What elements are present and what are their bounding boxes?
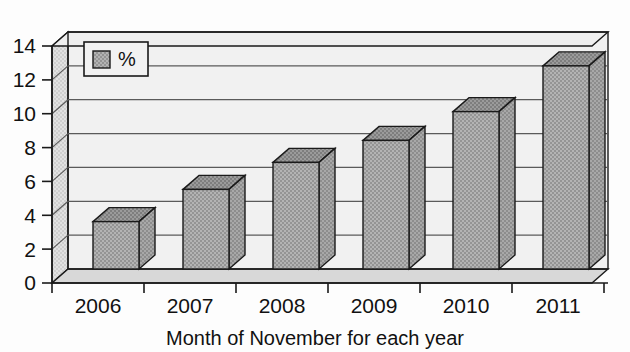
y-tick-label-0: 0 — [24, 271, 36, 294]
bar-2008 — [273, 148, 335, 269]
bar-side-face — [499, 98, 515, 269]
legend-swatch-icon — [93, 51, 110, 68]
bar-front-face — [453, 112, 499, 269]
bar-2007 — [183, 175, 245, 269]
bar-side-face — [589, 52, 605, 269]
x-axis-title: Month of November for each year — [166, 327, 464, 349]
bar-front-face — [363, 140, 409, 269]
bar-side-face — [319, 148, 335, 269]
x-tick-label-2010: 2010 — [443, 294, 490, 317]
y-tick-label-4: 4 — [24, 204, 36, 227]
x-axis: 2006 2007 2008 2009 2010 2011 — [52, 283, 608, 317]
bar-side-face — [229, 175, 245, 269]
y-tick-label-6: 6 — [24, 170, 36, 193]
legend[interactable]: % — [84, 42, 148, 76]
y-tick-label-2: 2 — [24, 238, 36, 261]
bar-front-face — [273, 162, 319, 269]
bar-front-face — [543, 66, 589, 269]
bar-front-face — [93, 222, 139, 269]
left-depth-wall — [52, 32, 68, 283]
y-tick-label-8: 8 — [24, 136, 36, 159]
x-tick-label-2009: 2009 — [351, 294, 398, 317]
bar-2011 — [543, 52, 605, 269]
x-tick-label-2007: 2007 — [167, 294, 214, 317]
bar-chart: 0 2 4 6 8 10 12 14 2006 2007 2008 2009 2… — [0, 0, 630, 352]
bar-2010 — [453, 98, 515, 269]
bar-front-face — [183, 189, 229, 269]
bar-side-face — [409, 126, 425, 269]
legend-label-percent: % — [118, 48, 136, 70]
chart-canvas: 0 2 4 6 8 10 12 14 2006 2007 2008 2009 2… — [0, 0, 630, 352]
bar-2009 — [363, 126, 425, 269]
x-tick-label-2008: 2008 — [259, 294, 306, 317]
y-axis: 0 2 4 6 8 10 12 14 — [13, 34, 52, 294]
x-tick-label-2006: 2006 — [75, 294, 122, 317]
y-tick-label-12: 12 — [13, 68, 36, 91]
bar-2006 — [93, 208, 155, 269]
floor-plane — [52, 269, 608, 283]
x-tick-label-2011: 2011 — [535, 294, 580, 317]
y-tick-label-14: 14 — [13, 34, 37, 57]
y-tick-label-10: 10 — [13, 102, 36, 125]
